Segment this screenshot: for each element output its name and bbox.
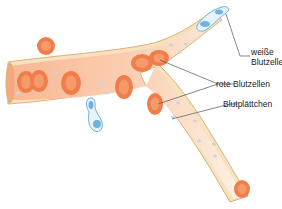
- label-white-cell-line2: Blutzelle: [251, 57, 282, 67]
- red-cell: [149, 50, 169, 66]
- label-platelets: Blutplättchen: [223, 99, 272, 109]
- leader-white-cell: [226, 14, 250, 56]
- platelet: [184, 43, 188, 46]
- platelet: [105, 92, 109, 95]
- label-red-cells: rote Blutzellen: [216, 79, 270, 89]
- white-cell: [86, 98, 102, 132]
- red-cell: [37, 37, 55, 55]
- red-cell: [147, 93, 163, 115]
- red-cell: [61, 71, 81, 95]
- platelet: [213, 155, 217, 158]
- platelet: [212, 143, 216, 146]
- vessel-end-left: [6, 63, 14, 103]
- platelet: [197, 140, 201, 143]
- platelet: [176, 102, 180, 105]
- label-white-cell: weiße Blutzelle: [251, 47, 282, 67]
- platelet: [16, 92, 20, 95]
- platelet: [193, 120, 197, 123]
- platelet: [169, 44, 173, 47]
- red-cell: [115, 75, 133, 99]
- platelet: [100, 82, 105, 85]
- platelet: [54, 72, 58, 75]
- platelet: [178, 51, 182, 54]
- label-white-cell-line1: weiße: [251, 47, 282, 57]
- red-cell: [234, 180, 250, 198]
- red-cell: [30, 70, 48, 92]
